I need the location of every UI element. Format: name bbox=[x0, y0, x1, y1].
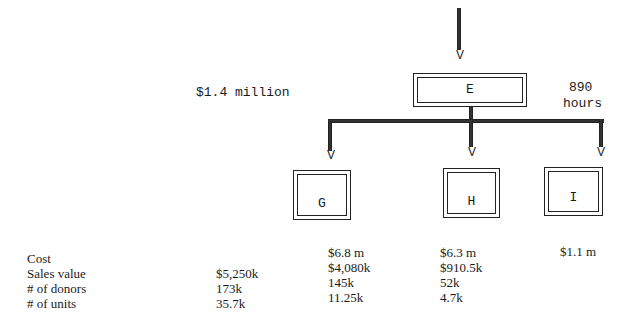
column-e: $5,250k 173k 35.7k bbox=[216, 251, 258, 311]
branch-i-connector bbox=[599, 119, 603, 147]
arrowhead-icon: V bbox=[456, 48, 464, 62]
node-g: G bbox=[293, 170, 351, 220]
node-i: I bbox=[544, 167, 603, 216]
arrowhead-i-icon: V bbox=[597, 145, 605, 159]
cell: 173k bbox=[216, 281, 258, 296]
column-i: $1.1 m bbox=[560, 244, 596, 259]
branch-bar bbox=[328, 119, 604, 123]
row-label-sales-value: Sales value bbox=[27, 266, 86, 281]
cell: 145k bbox=[328, 275, 370, 290]
node-e-label: E bbox=[414, 82, 526, 97]
hours-annotation-unit: hours bbox=[563, 96, 602, 111]
column-g: $6.8 m $4,080k 145k 11.25k bbox=[328, 245, 370, 305]
node-h: H bbox=[443, 168, 500, 218]
branch-h-connector bbox=[469, 121, 473, 147]
cell: $1.1 m bbox=[560, 244, 596, 259]
node-g-label: G bbox=[294, 196, 350, 211]
hours-annotation-number: 890 bbox=[569, 80, 592, 95]
arrowhead-g-icon: V bbox=[327, 148, 335, 162]
cell: $910.5k bbox=[440, 260, 482, 275]
node-h-label: H bbox=[444, 194, 499, 209]
cell: $4,080k bbox=[328, 260, 370, 275]
row-labels: Cost Sales value # of donors # of units bbox=[27, 251, 86, 311]
cell: $6.3 m bbox=[440, 245, 482, 260]
cell: 11.25k bbox=[328, 290, 370, 305]
column-h: $6.3 m $910.5k 52k 4.7k bbox=[440, 245, 482, 305]
cell: 52k bbox=[440, 275, 482, 290]
arrowhead-h-icon: V bbox=[468, 145, 476, 159]
incoming-connector bbox=[457, 8, 461, 50]
cell: $5,250k bbox=[216, 266, 258, 281]
row-label-donors: # of donors bbox=[27, 281, 86, 296]
cell: $6.8 m bbox=[328, 245, 370, 260]
row-label-units: # of units bbox=[27, 296, 86, 311]
cost-annotation: $1.4 million bbox=[196, 85, 290, 100]
node-i-label: I bbox=[545, 190, 602, 205]
cell: 35.7k bbox=[216, 296, 258, 311]
row-label-cost: Cost bbox=[27, 251, 86, 266]
branch-g-connector bbox=[328, 121, 332, 151]
cell: 4.7k bbox=[440, 290, 482, 305]
cell bbox=[216, 251, 258, 266]
node-e: E bbox=[413, 73, 527, 107]
